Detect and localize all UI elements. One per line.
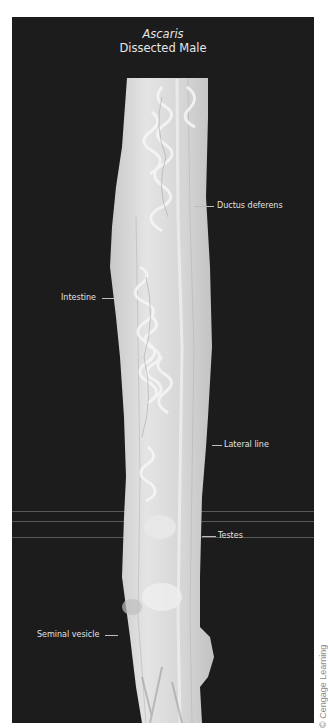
figure-panel: Ascaris Dissected Male xyxy=(12,17,314,723)
ductus-deferens-leader-line xyxy=(194,206,214,207)
testes-leader-line xyxy=(202,536,216,537)
label-lateral-line: Lateral line xyxy=(224,440,269,450)
ascaris-specimen-image xyxy=(12,17,314,723)
seminal-vesicle-leader-line xyxy=(105,635,118,636)
lateral-line-leader-line xyxy=(212,445,222,446)
label-intestine: Intestine xyxy=(61,293,96,303)
label-testes: Testes xyxy=(218,531,243,541)
intestine-leader-line xyxy=(102,298,114,299)
copyright-credit: © Cengage Learning xyxy=(318,645,328,728)
label-ductus-deferens: Ductus deferens xyxy=(217,201,283,211)
label-seminal-vesicle: Seminal vesicle xyxy=(37,630,99,640)
